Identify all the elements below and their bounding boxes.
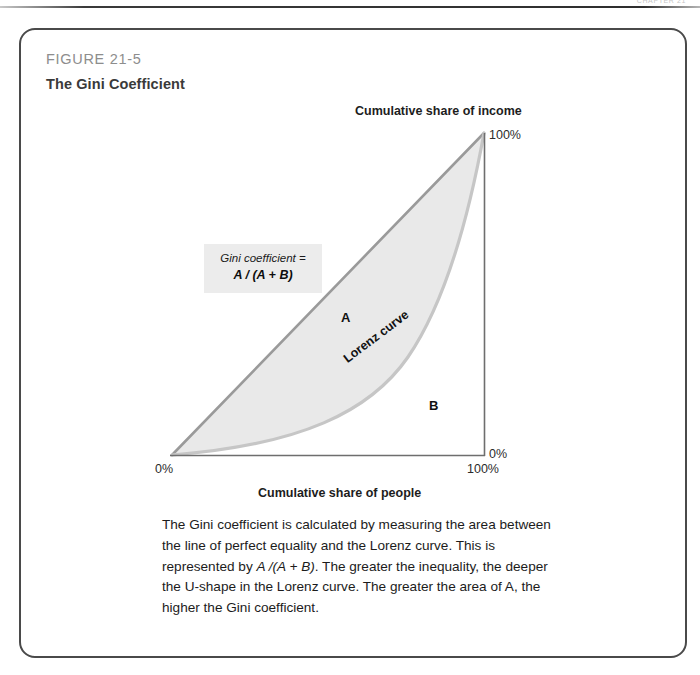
page-header-text: CHAPTER 21 [637, 0, 686, 4]
page-top-rule [0, 6, 700, 8]
figure-number-label: FIGURE 21-5 [46, 51, 142, 67]
figure-title: The Gini Coefficient [46, 76, 185, 92]
figure-caption: The Gini coefficient is calculated by me… [162, 515, 552, 619]
